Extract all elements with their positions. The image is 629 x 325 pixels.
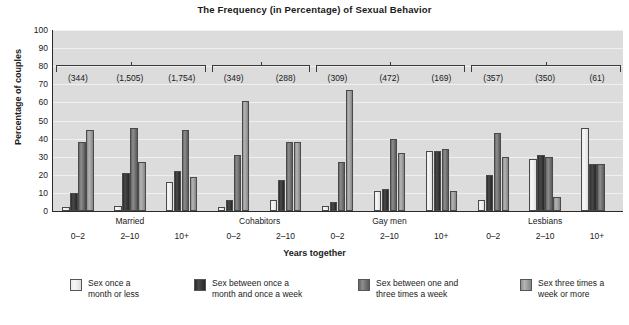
y-tick-40: 40	[4, 135, 48, 144]
bracket-tick	[546, 62, 547, 66]
legend-label-2: Sex between one and three times a week	[376, 278, 458, 299]
bar-g7-s0	[426, 151, 433, 211]
bracket-gay-men	[316, 65, 466, 72]
bar-g0-s3	[86, 130, 93, 211]
bracket-married	[56, 65, 206, 72]
bar-g9-s3	[553, 197, 560, 211]
y-axis-line	[52, 30, 53, 212]
bar-g4-s3	[294, 142, 301, 211]
legend-item-0[interactable]: Sex once a month or less	[70, 278, 139, 299]
y-tick-30: 30	[4, 153, 48, 162]
bar-g8-s1	[486, 175, 493, 211]
bar-g1-s3	[138, 162, 145, 211]
y-tick-70: 70	[4, 80, 48, 89]
legend-item-1[interactable]: Sex between once a month and once a week	[194, 278, 302, 299]
series-3-swatch	[520, 279, 532, 291]
series-1-swatch	[194, 279, 206, 291]
legend-label-1: Sex between once a month and once a week	[212, 278, 302, 299]
bar-g5-s2	[338, 162, 345, 211]
y-tick-100: 100	[4, 26, 48, 35]
bar-g9-s1	[537, 155, 544, 211]
bar-g7-s2	[442, 149, 449, 211]
y-tick-60: 60	[4, 98, 48, 107]
bracket-tick	[261, 62, 262, 66]
bar-g8-s2	[494, 133, 501, 211]
x-axis-title: Years together	[0, 248, 629, 258]
bar-g4-s1	[278, 180, 285, 211]
bar-g0-s2	[78, 142, 85, 211]
group-label-gay-men: Gay men	[339, 216, 439, 226]
group-label-married: Married	[80, 216, 180, 226]
y-tick-20: 20	[4, 171, 48, 180]
bar-g6-s0	[374, 191, 381, 211]
legend-item-3[interactable]: Sex three times a week or more	[520, 278, 604, 299]
bar-g4-s2	[286, 142, 293, 211]
bracket-cohabitors	[212, 65, 310, 72]
bracket-tick	[131, 62, 132, 66]
y-tick-0: 0	[4, 207, 48, 216]
bar-g7-s3	[450, 191, 457, 211]
x-tick-10: 10+	[567, 231, 627, 241]
bar-g1-s1	[122, 173, 129, 211]
bar-g8-s0	[478, 200, 485, 211]
y-tick-10: 10	[4, 189, 48, 198]
bar-g6-s3	[398, 153, 405, 211]
bar-g1-s2	[130, 128, 137, 211]
y-tick-50: 50	[4, 117, 48, 126]
bar-g8-s3	[502, 157, 509, 211]
bar-g6-s2	[390, 139, 397, 211]
bar-g5-s1	[330, 202, 337, 211]
x-axis-line	[52, 211, 623, 212]
bracket-lesbians	[471, 65, 621, 72]
sample-size-10: (61)	[567, 73, 627, 83]
bar-g3-s3	[242, 101, 249, 211]
bar-g3-s2	[234, 155, 241, 211]
y-tick-90: 90	[4, 44, 48, 53]
bar-g0-s1	[70, 193, 77, 211]
bar-g2-s2	[182, 130, 189, 211]
bar-g3-s1	[226, 200, 233, 211]
plot-area	[52, 30, 623, 211]
bar-g10-s1	[589, 164, 596, 211]
bar-g5-s3	[346, 90, 353, 211]
series-0-swatch	[70, 279, 82, 291]
bracket-tick	[390, 62, 391, 66]
y-axis-tick-labels: 1009080706050403020100	[0, 0, 48, 325]
bar-g10-s2	[597, 164, 604, 211]
bar-g4-s0	[270, 200, 277, 211]
legend-label-3: Sex three times a week or more	[538, 278, 604, 299]
bar-g7-s1	[434, 151, 441, 211]
legend-item-2[interactable]: Sex between one and three times a week	[358, 278, 458, 299]
bar-g9-s0	[529, 159, 536, 211]
bar-series-container	[52, 30, 623, 211]
chart-title: The Frequency (in Percentage) of Sexual …	[0, 4, 629, 15]
bar-g9-s2	[545, 157, 552, 211]
y-axis-title: Percentage of couples	[13, 32, 23, 162]
bar-g10-s0	[581, 128, 588, 211]
legend-label-0: Sex once a month or less	[88, 278, 139, 299]
chart-legend: Sex once a month or lessSex between once…	[70, 278, 615, 308]
bar-g2-s3	[190, 177, 197, 211]
bar-g2-s0	[166, 182, 173, 211]
group-label-cohabitors: Cohabitors	[210, 216, 310, 226]
bar-g2-s1	[174, 171, 181, 211]
bar-g6-s1	[382, 189, 389, 211]
y-tick-80: 80	[4, 62, 48, 71]
group-label-lesbians: Lesbians	[495, 216, 595, 226]
series-2-swatch	[358, 279, 370, 291]
